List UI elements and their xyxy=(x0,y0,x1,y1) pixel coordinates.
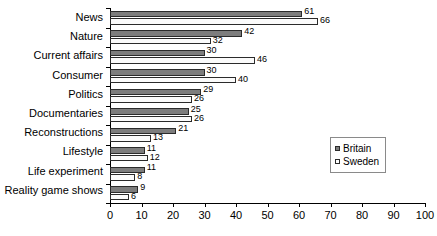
bar-value-label: 42 xyxy=(244,27,254,36)
bar-sweden xyxy=(110,194,129,200)
bar-value-label: 13 xyxy=(153,133,163,142)
category-label: Lifestyle xyxy=(0,142,107,161)
bar-britain xyxy=(110,69,205,75)
bar-value-label: 61 xyxy=(304,7,314,16)
legend-swatch-britain-icon xyxy=(335,146,340,151)
bar-sweden xyxy=(110,38,211,44)
legend-item-britain: Britain xyxy=(335,142,379,155)
x-tick-mark xyxy=(142,203,143,207)
x-tick-mark xyxy=(299,203,300,207)
bar-sweden xyxy=(110,96,192,102)
bar-britain xyxy=(110,50,205,56)
bar-value-label: 30 xyxy=(207,66,217,75)
bar-sweden xyxy=(110,155,148,161)
x-tick-label: 30 xyxy=(190,209,220,221)
bar-sweden xyxy=(110,174,135,180)
bar-britain xyxy=(110,89,201,95)
bar-value-label: 66 xyxy=(320,16,330,25)
x-tick-label: 70 xyxy=(316,209,346,221)
category-label: Reconstructions xyxy=(0,123,107,142)
bar-value-label: 30 xyxy=(207,46,217,55)
bar-value-label: 32 xyxy=(213,36,223,45)
bar-sweden xyxy=(110,77,236,83)
x-tick-mark xyxy=(268,203,269,207)
bar-value-label: 26 xyxy=(194,94,204,103)
x-tick-label: 50 xyxy=(253,209,283,221)
x-tick-mark xyxy=(205,203,206,207)
category-label: Reality game shows xyxy=(0,181,107,200)
x-tick-mark xyxy=(173,203,174,207)
bar-sweden xyxy=(110,135,151,141)
chart-legend: Britain Sweden xyxy=(330,137,386,173)
x-tick-mark xyxy=(110,203,111,207)
bar-group: 96 xyxy=(110,184,425,203)
category-label: Politics xyxy=(0,85,107,104)
bar-sweden xyxy=(110,116,192,122)
bar-value-label: 21 xyxy=(178,124,188,133)
category-label: Current affairs xyxy=(0,46,107,65)
bar-group: 2926 xyxy=(110,86,425,105)
category-label: Documentaries xyxy=(0,104,107,123)
legend-item-sweden: Sweden xyxy=(335,155,379,168)
bar-sweden xyxy=(110,57,255,63)
bar-britain xyxy=(110,128,176,134)
legend-label-sweden: Sweden xyxy=(343,155,379,168)
bar-value-label: 40 xyxy=(238,75,248,84)
category-label: Life experiment xyxy=(0,162,107,181)
bar-britain xyxy=(110,108,189,114)
x-tick-mark xyxy=(394,203,395,207)
x-tick-label: 60 xyxy=(284,209,314,221)
x-tick-label: 80 xyxy=(347,209,377,221)
plot-area: 0102030405060708090100 61664232304630402… xyxy=(110,8,425,203)
bar-value-label: 26 xyxy=(194,114,204,123)
x-tick-mark xyxy=(236,203,237,207)
x-tick-mark xyxy=(331,203,332,207)
bar-sweden xyxy=(110,18,318,24)
bar-group: 4232 xyxy=(110,28,425,47)
bar-group: 6166 xyxy=(110,8,425,27)
bar-value-label: 12 xyxy=(150,153,160,162)
y-tick-mark xyxy=(106,203,110,204)
legend-label-britain: Britain xyxy=(343,142,371,155)
category-label: News xyxy=(0,8,107,27)
bar-group: 3046 xyxy=(110,47,425,66)
bar-value-label: 29 xyxy=(203,85,213,94)
bar-group: 2526 xyxy=(110,106,425,125)
x-tick-mark xyxy=(362,203,363,207)
bar-value-label: 6 xyxy=(131,192,136,201)
x-tick-label: 40 xyxy=(221,209,251,221)
x-tick-label: 90 xyxy=(379,209,409,221)
bar-britain xyxy=(110,147,145,153)
x-tick-label: 0 xyxy=(95,209,125,221)
category-label: Consumer xyxy=(0,66,107,85)
category-axis-labels: NewsNatureCurrent affairsConsumerPolitic… xyxy=(0,8,107,200)
x-tick-label: 100 xyxy=(410,209,437,221)
bar-value-label: 8 xyxy=(137,172,142,181)
x-tick-label: 20 xyxy=(158,209,188,221)
bar-britain xyxy=(110,11,302,17)
bar-value-label: 46 xyxy=(257,55,267,64)
bar-group: 3040 xyxy=(110,67,425,86)
bar-value-label: 9 xyxy=(140,183,145,192)
legend-swatch-sweden-icon xyxy=(335,159,340,164)
bar-value-label: 11 xyxy=(147,163,156,172)
x-tick-mark xyxy=(425,203,426,207)
category-label: Nature xyxy=(0,27,107,46)
bar-chart: NewsNatureCurrent affairsConsumerPolitic… xyxy=(0,0,437,236)
x-tick-label: 10 xyxy=(127,209,157,221)
